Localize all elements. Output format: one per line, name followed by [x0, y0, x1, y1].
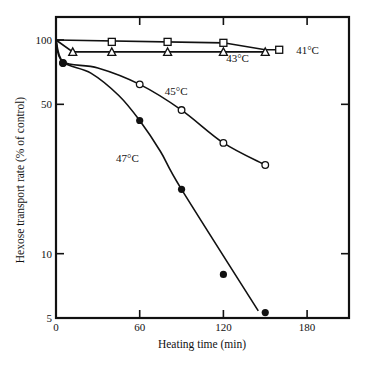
chart: 06012018051050100 41°C43°C45°C47°C Heati… — [0, 0, 366, 369]
series-label-41c: 41°C — [296, 44, 319, 56]
x-axis-title: Heating time (min) — [158, 338, 246, 351]
filled-circle-marker — [220, 271, 227, 278]
filled-circle-marker — [178, 186, 185, 193]
data-markers — [59, 38, 282, 316]
plot-border — [56, 17, 349, 318]
series-label-43c: 43°C — [226, 52, 249, 64]
series-labels: 41°C43°C45°C47°C — [116, 44, 319, 164]
x-tick-label: 120 — [215, 321, 232, 333]
square-marker — [164, 38, 171, 45]
y-tick-label: 100 — [36, 34, 53, 46]
open-circle-marker — [262, 162, 269, 169]
x-tick-label: 60 — [134, 321, 146, 333]
series-line-47c — [56, 40, 258, 311]
series-label-47c: 47°C — [116, 152, 139, 164]
square-marker — [220, 39, 227, 46]
x-tick-label: 0 — [53, 321, 59, 333]
series-lines — [56, 40, 279, 311]
open-circle-marker — [178, 107, 185, 114]
square-marker — [108, 38, 115, 45]
open-circle-marker — [136, 81, 143, 88]
axis-ticks: 06012018051050100 — [36, 17, 350, 333]
x-tick-label: 180 — [299, 321, 316, 333]
plot-frame — [56, 17, 349, 318]
series-label-45c: 45°C — [165, 85, 188, 97]
y-axis-title: Hexose transport rate (% of control) — [14, 97, 27, 264]
open-circle-marker — [220, 140, 227, 147]
y-tick-label: 10 — [41, 248, 53, 260]
y-tick-label: 5 — [47, 312, 53, 324]
filled-circle-marker — [59, 59, 66, 66]
filled-circle-marker — [262, 309, 269, 316]
filled-circle-marker — [136, 117, 143, 124]
y-tick-label: 50 — [41, 98, 53, 110]
square-marker — [276, 46, 283, 53]
